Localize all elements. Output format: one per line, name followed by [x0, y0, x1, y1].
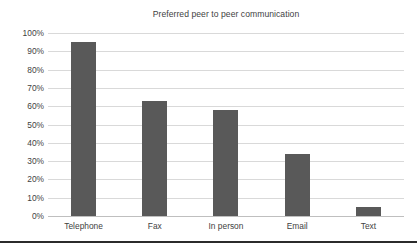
bar-telephone[interactable] [71, 42, 96, 216]
y-tick-label: 100% [0, 29, 44, 38]
bar-group [333, 33, 404, 216]
y-axis: 100%90%80%70%60%50%40%30%20%10%0% [0, 33, 44, 216]
bar-text[interactable] [356, 207, 381, 216]
y-tick-label: 30% [0, 157, 44, 166]
chart-title: Preferred peer to peer communication [48, 9, 404, 20]
bars-layer [48, 33, 404, 216]
bar-chart-figure: Preferred peer to peer communication 100… [0, 0, 417, 252]
x-tick-label-fax: Fax [119, 221, 190, 232]
bar-fax[interactable] [142, 101, 167, 216]
bar-group [119, 33, 190, 216]
bar-in-person[interactable] [213, 110, 238, 216]
x-tick-label-telephone: Telephone [48, 221, 119, 232]
y-tick-label: 70% [0, 83, 44, 92]
bar-email[interactable] [285, 154, 310, 216]
x-tick-label-email: Email [262, 221, 333, 232]
x-tick-label-text: Text [333, 221, 404, 232]
bar-group [262, 33, 333, 216]
bottom-rule [0, 241, 417, 243]
y-tick-label: 10% [0, 193, 44, 202]
y-tick-label: 40% [0, 138, 44, 147]
y-tick-label: 20% [0, 175, 44, 184]
y-tick-label: 60% [0, 102, 44, 111]
x-tick-label-in-person: In person [190, 221, 261, 232]
y-tick-label: 0% [0, 212, 44, 221]
bar-group [48, 33, 119, 216]
bar-group [190, 33, 261, 216]
x-axis: TelephoneFaxIn personEmailText [48, 221, 404, 235]
y-tick-label: 80% [0, 65, 44, 74]
y-tick-label: 90% [0, 47, 44, 56]
gridline [48, 216, 404, 217]
y-tick-label: 50% [0, 120, 44, 129]
